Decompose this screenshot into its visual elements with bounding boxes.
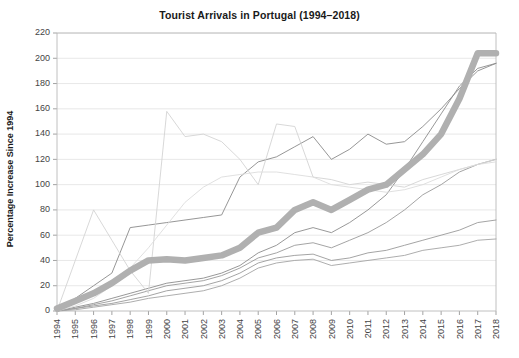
x-tick-label: 2010	[345, 319, 355, 339]
x-tick-label: 2014	[418, 319, 428, 339]
series-line	[57, 220, 496, 311]
x-tick-label: 1995	[70, 319, 80, 339]
y-tick-label: 180	[35, 78, 50, 88]
series-line	[57, 111, 496, 311]
x-tick-label: 2001	[180, 319, 190, 339]
x-tick-label: 2002	[199, 319, 209, 339]
y-tick-label: 160	[35, 103, 50, 113]
x-tick-label: 2004	[235, 319, 245, 339]
x-tick-label: 2013	[400, 319, 410, 339]
x-tick-label: 2006	[272, 319, 282, 339]
y-tick-label: 140	[35, 128, 50, 138]
y-axis-ticks-group: 020406080100120140160180200220	[35, 27, 57, 315]
x-tick-label: 2018	[491, 319, 501, 339]
x-tick-label: 2012	[381, 319, 391, 339]
series-line-highlighted	[57, 53, 496, 308]
y-tick-label: 200	[35, 53, 50, 63]
chart-container: Tourist Arrivals in Portugal (1994–2018)…	[0, 0, 519, 358]
y-tick-label: 100	[35, 179, 50, 189]
gridlines-group	[57, 33, 496, 286]
x-tick-label: 1997	[107, 319, 117, 339]
x-tick-label: 1999	[144, 319, 154, 339]
y-tick-label: 120	[35, 154, 50, 164]
x-tick-label: 2015	[436, 319, 446, 339]
x-tick-label: 1994	[52, 319, 62, 339]
x-tick-label: 2007	[290, 319, 300, 339]
y-tick-label: 40	[40, 255, 50, 265]
x-tick-label: 2003	[217, 319, 227, 339]
data-series-group	[57, 53, 496, 311]
x-tick-label: 2011	[363, 319, 373, 338]
x-tick-label: 2017	[473, 319, 483, 339]
y-tick-label: 220	[35, 27, 50, 37]
x-tick-label: 2008	[308, 319, 318, 339]
plot-area: 020406080100120140160180200220 199419951…	[0, 0, 519, 358]
y-tick-label: 60	[40, 230, 50, 240]
x-tick-label: 1998	[125, 319, 135, 339]
x-tick-label: 2016	[455, 319, 465, 339]
x-tick-label: 2009	[327, 319, 337, 339]
x-tick-label: 2000	[162, 319, 172, 339]
x-tick-label: 1996	[89, 319, 99, 339]
y-tick-label: 0	[45, 305, 50, 315]
y-tick-label: 20	[40, 280, 50, 290]
x-tick-label: 2005	[253, 319, 263, 339]
y-tick-label: 80	[40, 204, 50, 214]
x-axis-ticks-group: 1994199519961997199819992000200120022003…	[52, 311, 501, 339]
